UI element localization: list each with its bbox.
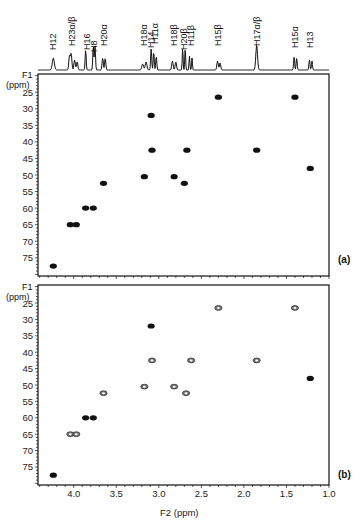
cross-peak-positive	[307, 166, 314, 171]
cross-peak-positive	[291, 95, 298, 100]
x-tick-label: 4.0	[67, 488, 80, 499]
panel-b-cross-peaks	[50, 306, 314, 478]
projection-peak-label: H11α	[150, 23, 160, 44]
y-tick-label: 60	[22, 203, 33, 214]
cross-peak-positive	[90, 206, 97, 211]
panel-b: 2530354045505560657075 4.03.53.02.52.01.…	[6, 282, 351, 499]
y-tick-label: 55	[22, 186, 33, 197]
projection-peak-label: H18β	[169, 24, 179, 46]
projection-peak-label: H23α/β	[67, 17, 77, 46]
cross-peak-contour-hole	[75, 433, 78, 435]
panel-b-f1-label: F1	[22, 282, 33, 292]
cross-peak-positive	[148, 113, 155, 118]
y-tick-label: 35	[22, 330, 33, 341]
projection-peak-label: H12	[48, 33, 58, 50]
cross-peak-positive	[148, 148, 155, 153]
panel-a-f1-label: F1	[22, 70, 33, 80]
x-tick-label: 2.5	[195, 488, 208, 499]
cross-peak-contour-hole	[143, 386, 146, 388]
y-tick-label: 75	[22, 252, 33, 263]
x-tick-label: 1.5	[280, 488, 293, 499]
y-tick-label: 70	[22, 445, 33, 456]
cross-peak-contour-hole	[173, 386, 176, 388]
panel-a-ppm-label: (ppm)	[6, 80, 30, 90]
cross-peak-positive	[50, 263, 57, 268]
y-tick-label: 35	[22, 120, 33, 131]
x-tick-label: 2.0	[237, 488, 250, 499]
y-tick-label: 55	[22, 396, 33, 407]
panel-b-x-axis: 4.03.53.02.52.01.51.0	[40, 485, 336, 499]
y-tick-label: 40	[22, 347, 33, 358]
cross-peak-positive	[82, 206, 89, 211]
projection-peak-label: H15β	[213, 24, 223, 46]
y-tick-label: 30	[22, 103, 33, 114]
panel-b-tag: (b)	[338, 469, 351, 480]
cross-peak-positive	[148, 323, 155, 328]
cross-peak-contour-hole	[255, 359, 258, 361]
cross-peak-positive	[215, 95, 222, 100]
cross-peak-positive	[73, 222, 80, 227]
projection-peak-label: H17α/β	[252, 17, 262, 46]
y-tick-label: 45	[22, 363, 33, 374]
cross-peak-contour-hole	[217, 307, 220, 309]
cross-peak-contour-hole	[294, 307, 297, 309]
cross-peak-positive	[82, 415, 89, 420]
y-tick-label: 50	[22, 170, 33, 181]
y-tick-label: 75	[22, 461, 33, 472]
x-tick-label: 3.0	[152, 488, 165, 499]
panel-a-tag: (a)	[338, 254, 350, 265]
cross-peak-positive	[307, 376, 314, 381]
y-tick-label: 50	[22, 380, 33, 391]
projection-peak-label: H15α	[290, 26, 300, 48]
panel-a-frame	[38, 74, 329, 276]
y-tick-label: 70	[22, 236, 33, 247]
projection-peak-label: H20α	[99, 24, 109, 46]
panel-b-y-axis: 2530354045505560657075	[22, 287, 38, 484]
cross-peak-positive	[253, 148, 260, 153]
cross-peak-positive	[90, 415, 97, 420]
cross-peak-positive	[171, 174, 178, 179]
x-tick-label: 1.0	[322, 488, 335, 499]
cross-peak-contour-hole	[151, 359, 154, 361]
x-tick-label: 3.5	[110, 488, 123, 499]
panel-a: 2530354045505560657075 F1 (ppm) (a)	[6, 70, 350, 279]
y-tick-label: 30	[22, 314, 33, 325]
x-axis-title: F2 (ppm)	[160, 507, 199, 518]
projection-peak-labels: H12H23α/βH16H8H20αH18αH14H11αH18βH20βH11…	[48, 17, 315, 52]
cross-peak-contour-hole	[190, 359, 193, 361]
y-tick-label: 65	[22, 219, 33, 230]
cross-peak-contour-hole	[102, 392, 105, 394]
panel-a-y-axis: 2530354045505560657075	[22, 76, 38, 275]
y-tick-label: 45	[22, 153, 33, 164]
cross-peak-positive	[141, 174, 148, 179]
panel-b-frame	[38, 285, 329, 485]
panel-b-ppm-label: (ppm)	[6, 292, 30, 302]
projection-peak-label: H11β	[186, 25, 196, 46]
cross-peak-contour-hole	[69, 433, 72, 435]
y-tick-label: 65	[22, 429, 33, 440]
cross-peak-positive	[183, 148, 190, 153]
y-tick-label: 40	[22, 136, 33, 147]
panel-a-cross-peaks	[50, 95, 314, 269]
cross-peak-contour-hole	[185, 392, 188, 394]
nmr-figure: H12H23α/βH16H8H20αH18αH14H11αH18βH20βH11…	[0, 0, 361, 521]
cross-peak-positive	[181, 181, 188, 186]
y-tick-label: 60	[22, 412, 33, 423]
projection-peak-label: H13	[305, 31, 315, 48]
cross-peak-positive	[100, 181, 107, 186]
cross-peak-positive	[50, 473, 57, 478]
